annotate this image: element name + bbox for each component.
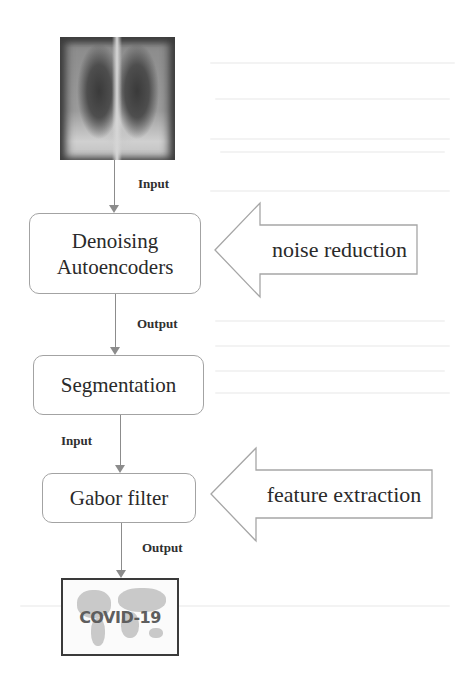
step-label: Segmentation: [61, 372, 176, 398]
world-map-icon: [149, 628, 163, 638]
side-arrow-label-noise-reduction: noise reduction: [262, 226, 417, 274]
step-denoising-autoencoders: Denoising Autoencoders: [29, 213, 201, 294]
connector-line: [120, 415, 121, 466]
side-arrow-label-feature-extraction: feature extraction: [256, 471, 432, 518]
arrow-down-icon: [110, 347, 120, 355]
chest-xray-spine: [112, 37, 122, 160]
connector-label-input: Input: [138, 176, 169, 192]
connector-line: [115, 294, 116, 348]
connector-label-output: Output: [137, 316, 177, 332]
covid-19-label: COVID-19: [79, 608, 161, 627]
step-gabor-filter: Gabor filter: [42, 473, 196, 523]
covid-19-output-image: COVID-19: [61, 578, 179, 656]
connector-label-output: Output: [142, 540, 182, 556]
connector-label-input: Input: [61, 433, 92, 449]
step-label-line-2: Autoencoders: [57, 254, 174, 280]
arrow-down-icon: [115, 465, 125, 473]
connector-line: [121, 523, 122, 571]
arrow-down-icon: [116, 570, 126, 578]
step-label-line-1: Denoising: [72, 228, 158, 254]
arrow-down-icon: [109, 205, 119, 213]
connector-line: [114, 160, 115, 206]
step-segmentation: Segmentation: [33, 355, 204, 415]
step-label: Gabor filter: [70, 485, 169, 511]
